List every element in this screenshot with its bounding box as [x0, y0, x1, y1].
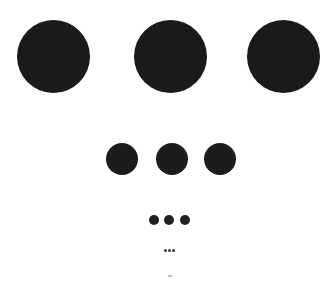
- small-dot-3: [180, 215, 190, 225]
- small-dot-2: [164, 215, 174, 225]
- large-dot-2: [134, 20, 207, 93]
- dot-row-medium: [0, 0, 335, 292]
- medium-dot-2: [156, 143, 188, 175]
- micro-dot-1: [168, 275, 169, 276]
- large-dot-3: [247, 20, 320, 93]
- medium-dot-1: [106, 143, 138, 175]
- micro-dot-3: [171, 275, 172, 276]
- large-dot-1: [17, 20, 90, 93]
- dot-row-large: [0, 0, 335, 292]
- tiny-dot-1: [164, 249, 167, 252]
- micro-dot-2: [169, 275, 170, 276]
- dot-row-small: [0, 0, 335, 292]
- dot-row-micro: [0, 0, 335, 292]
- small-dot-1: [149, 215, 159, 225]
- dots-canvas: [0, 0, 335, 292]
- dot-row-tiny: [0, 0, 335, 292]
- medium-dot-3: [204, 143, 236, 175]
- tiny-dot-2: [168, 249, 171, 252]
- tiny-dot-3: [172, 249, 175, 252]
